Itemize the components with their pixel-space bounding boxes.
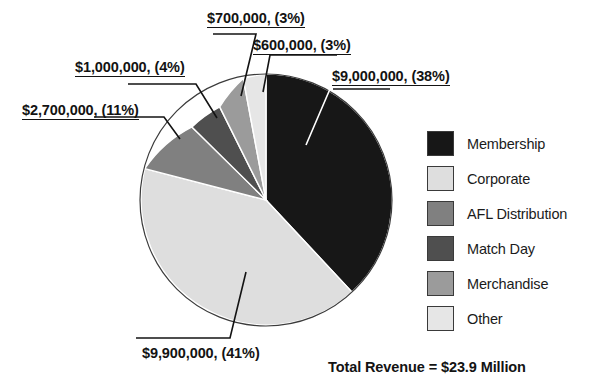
callout-afl-distribution: $2,700,000, (11%) bbox=[22, 102, 139, 118]
callout-corporate: $9,900,000, (41%) bbox=[142, 345, 260, 361]
legend-item-match-day[interactable]: Match Day bbox=[427, 231, 602, 266]
callout-match-day: $1,000,000, (4%) bbox=[75, 59, 185, 75]
callout-merchandise: $700,000, (3%) bbox=[207, 10, 305, 26]
callout-membership: $9,000,000, (38%) bbox=[332, 68, 450, 84]
legend-item-membership[interactable]: Membership bbox=[427, 126, 602, 161]
callout-other-text: $600,000, (3%) bbox=[253, 37, 351, 55]
legend-item-other[interactable]: Other bbox=[427, 301, 602, 336]
legend-swatch-other bbox=[427, 306, 454, 331]
callout-other: $600,000, (3%) bbox=[253, 37, 351, 53]
legend-swatch-corporate bbox=[427, 166, 454, 191]
legend-swatch-afl-distribution bbox=[427, 201, 454, 226]
leader-line-match-day bbox=[128, 84, 217, 118]
legend-swatch-merchandise bbox=[427, 271, 454, 296]
legend-item-corporate[interactable]: Corporate bbox=[427, 161, 602, 196]
total-revenue-label: Total Revenue = $23.9 Million bbox=[328, 359, 526, 375]
legend-label-other: Other bbox=[467, 311, 503, 327]
callout-membership-text: $9,000,000, (38%) bbox=[332, 68, 450, 86]
callout-merchandise-text: $700,000, (3%) bbox=[207, 10, 305, 28]
callout-match-day-text: $1,000,000, (4%) bbox=[75, 59, 185, 77]
legend-label-membership: Membership bbox=[467, 136, 545, 152]
legend-swatch-membership bbox=[427, 131, 454, 156]
legend-label-match-day: Match Day bbox=[467, 241, 535, 257]
legend-label-merchandise: Merchandise bbox=[467, 276, 548, 292]
legend-item-afl-distribution[interactable]: AFL Distribution bbox=[427, 196, 602, 231]
callout-corporate-text: $9,900,000, (41%) bbox=[142, 345, 260, 361]
legend: Membership Corporate AFL Distribution Ma… bbox=[427, 126, 602, 336]
legend-swatch-match-day bbox=[427, 236, 454, 261]
legend-label-afl-distribution: AFL Distribution bbox=[467, 206, 567, 222]
legend-item-merchandise[interactable]: Merchandise bbox=[427, 266, 602, 301]
callout-afl-distribution-text: $2,700,000, (11%) bbox=[22, 102, 139, 120]
legend-label-corporate: Corporate bbox=[467, 171, 530, 187]
pie-chart-figure: $700,000, (3%) $600,000, (3%) $1,000,000… bbox=[0, 0, 605, 389]
leader-line-afl bbox=[94, 117, 180, 139]
